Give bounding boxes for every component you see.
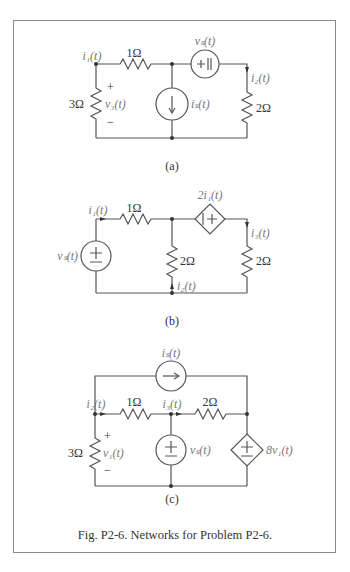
label-minus-a: − xyxy=(107,115,114,129)
label-i2-a: i₂(t) xyxy=(251,71,270,85)
label-minus-c: − xyxy=(104,463,111,477)
label-2i1-b: 2i₁(t) xyxy=(198,188,223,202)
label-1ohm-c: 1Ω xyxy=(127,395,142,409)
label-2ohm-c: 2Ω xyxy=(203,395,218,409)
label-vs-b: vₛ(t) xyxy=(57,249,78,263)
circuit-figure: i₁(t) 1Ω 3Ω + v₃(t) − vₛ(t) iₛ(t) i₂(t) … xyxy=(0,0,350,572)
label-a: (a) xyxy=(165,159,178,173)
label-is-c: iₛ(t) xyxy=(162,346,181,360)
circuit-a xyxy=(91,50,252,140)
label-3ohm-a: 3Ω xyxy=(69,97,84,111)
label-2ohm-mid-b: 2Ω xyxy=(180,254,195,268)
label-vs-c: vₛ(t) xyxy=(190,443,211,457)
figure-caption: Fig. P2-6. Networks for Problem P2-6. xyxy=(78,528,272,542)
label-i3-c: i₃(t) xyxy=(163,397,182,411)
label-i3-b: i₃(t) xyxy=(251,226,270,240)
label-i2-c: i₂(t) xyxy=(87,397,106,411)
label-c: (c) xyxy=(165,492,178,506)
circuit-b xyxy=(81,204,252,295)
label-1ohm-b: 1Ω xyxy=(127,201,142,215)
label-i1-b: i₁(t) xyxy=(89,203,108,217)
label-1ohm-a: 1Ω xyxy=(127,46,142,60)
label-8v1-c: 8v₁(t) xyxy=(266,443,293,457)
label-3ohm-c: 3Ω xyxy=(68,446,83,460)
label-b: (b) xyxy=(165,314,179,328)
circuit-c xyxy=(90,361,263,488)
label-plus-a: + xyxy=(107,80,114,94)
label-v3-a: v₃(t) xyxy=(105,97,126,111)
label-i2-b: i₂(t) xyxy=(177,279,196,293)
label-2ohm-right-b: 2Ω xyxy=(256,254,271,268)
label-2ohm-a: 2Ω xyxy=(256,101,271,115)
label-plus-c: + xyxy=(104,429,111,443)
label-is-a: iₛ(t) xyxy=(191,97,210,111)
label-v1-c: v₁(t) xyxy=(103,446,124,460)
label-i1-a: i₁(t) xyxy=(83,49,102,63)
label-vs-a: vₛ(t) xyxy=(195,34,216,48)
